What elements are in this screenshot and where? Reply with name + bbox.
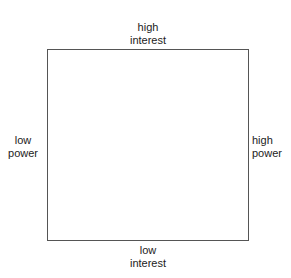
label-line: power [0,147,46,160]
label-line: interest [118,257,178,270]
label-line: low [118,244,178,257]
label-line: power [252,147,291,160]
label-low-interest: low interest [118,244,178,270]
label-line: low [0,134,46,147]
label-line: interest [118,34,178,47]
label-line: high [118,21,178,34]
label-line: high [252,134,291,147]
label-low-power: low power [0,134,46,160]
label-high-power: high power [249,134,291,160]
label-high-interest: high interest [118,21,178,47]
power-interest-grid-box [47,49,249,241]
